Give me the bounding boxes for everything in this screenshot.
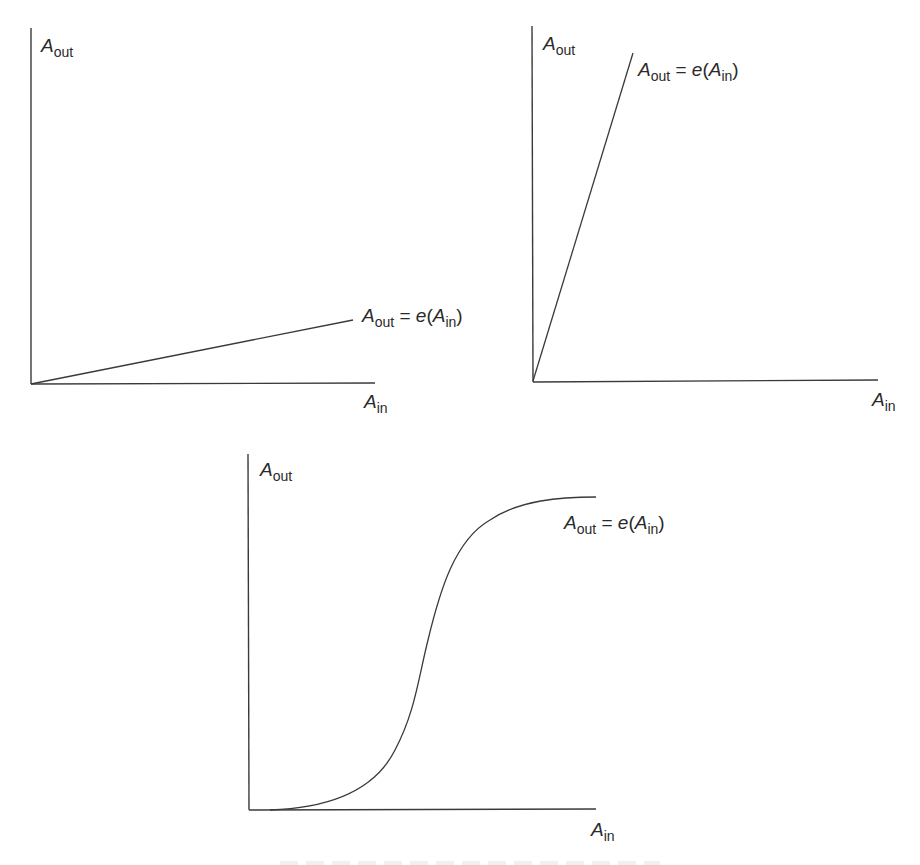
panel-linear-low-gain [31, 28, 375, 384]
y-axis [248, 454, 249, 810]
curve-label: Aout = e(Ain) [564, 513, 665, 536]
x-axis [249, 809, 596, 810]
transfer-curve [533, 53, 633, 381]
y-axis-label: Aout [543, 34, 575, 57]
x-axis [31, 383, 375, 384]
transfer-curve [270, 497, 596, 810]
cropped-caption [280, 861, 660, 865]
curve-label: Aout = e(Ain) [362, 306, 463, 329]
figure-canvas [0, 0, 920, 865]
transfer-curve [31, 320, 353, 384]
curve-label: Aout = e(Ain) [638, 60, 739, 83]
y-axis-label: Aout [260, 460, 292, 483]
x-axis [533, 380, 878, 382]
y-axis [532, 26, 533, 382]
x-axis-label: Ain [872, 390, 896, 413]
y-axis-label: Aout [41, 36, 73, 59]
x-axis-label: Ain [364, 392, 388, 415]
x-axis-label: Ain [591, 820, 615, 843]
panel-sigmoid [248, 454, 596, 810]
